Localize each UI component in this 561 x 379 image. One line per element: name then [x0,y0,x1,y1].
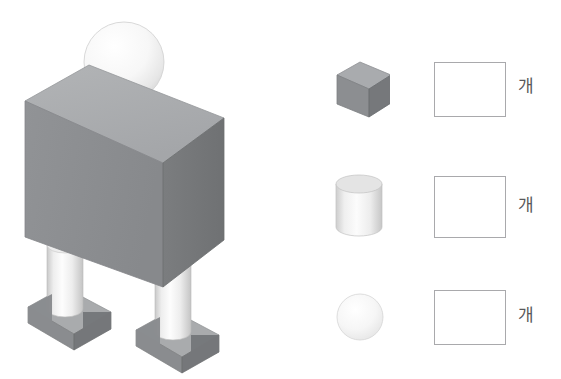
cube-shape-icon [320,50,420,150]
answer-input-cylinder[interactable] [434,176,506,238]
answer-input-sphere[interactable] [434,290,506,345]
unit-label-sphere: 개 [518,307,534,324]
unit-label-cube: 개 [518,78,534,95]
robot-figure-illustration [0,0,300,379]
unit-label-cylinder: 개 [518,197,534,214]
answer-row-cube: 개 [300,50,561,160]
answer-table: 개 [300,0,561,379]
cylinder-shape-icon [320,165,420,265]
answer-input-cube[interactable] [434,62,506,117]
worksheet-canvas: 개 [0,0,561,379]
sphere-shape-icon [320,280,420,379]
robot-figure-svg [0,0,300,379]
answer-row-cylinder: 개 [300,165,561,275]
answer-row-sphere: 개 [300,280,561,379]
